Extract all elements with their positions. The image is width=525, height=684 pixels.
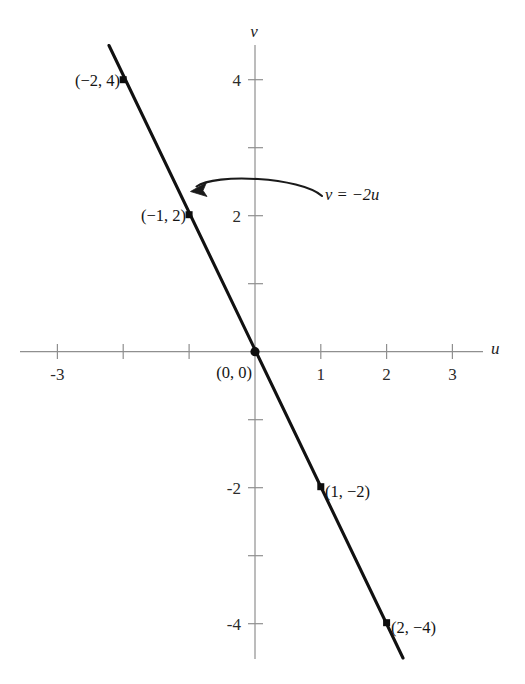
u-tick-label-2: 2 bbox=[382, 366, 391, 383]
point-label-1-neg2: (1, −2) bbox=[325, 484, 370, 501]
v-tick-label--4: -4 bbox=[227, 615, 241, 632]
point-label-2-neg4: (2, −4) bbox=[391, 620, 436, 637]
v-tick-label-4: 4 bbox=[233, 71, 242, 88]
marker-1-neg2 bbox=[317, 483, 324, 490]
marker-neg1-2 bbox=[186, 211, 193, 218]
v-tick-label-2: 2 bbox=[233, 207, 242, 224]
u-tick-label--3: -3 bbox=[50, 366, 64, 383]
marker-0-0 bbox=[250, 347, 259, 356]
callout-arc-path bbox=[197, 179, 323, 196]
u-tick-label-1: 1 bbox=[317, 366, 326, 383]
point-label-neg1-2: (−1, 2) bbox=[141, 208, 186, 225]
v-axis-label: v bbox=[250, 23, 258, 40]
point-label-neg2-4: (−2, 4) bbox=[75, 73, 120, 90]
v-tick-label--2: -2 bbox=[227, 479, 241, 496]
coordinate-plot-figure: -3 1 2 3 4 2 -2 -4 u v (−2, 4) (−1, 2) (… bbox=[0, 0, 525, 684]
u-axis-label: u bbox=[491, 340, 500, 357]
plot-canvas bbox=[0, 0, 525, 684]
equation-label: v = −2u bbox=[325, 187, 379, 204]
marker-2-neg4 bbox=[383, 619, 390, 626]
point-label-0-0: (0, 0) bbox=[216, 365, 252, 382]
u-tick-label-3: 3 bbox=[448, 366, 457, 383]
marker-neg2-4 bbox=[120, 76, 127, 83]
equation-callout-arrow bbox=[191, 179, 323, 197]
